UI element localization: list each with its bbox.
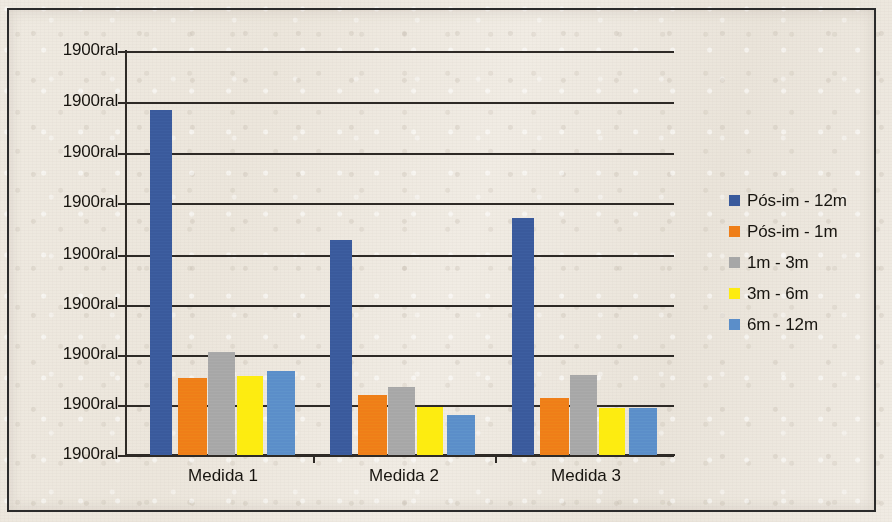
- scanned-page: 1900ral1900ral1900ral1900ral1900ral1900r…: [0, 0, 892, 522]
- y-axis-tick-label: 1900ral: [8, 40, 118, 60]
- bar-2-4: [417, 407, 443, 455]
- y-axis-tick-label: 1900ral: [8, 344, 118, 364]
- legend-item-1: Pós-im - 12m: [729, 185, 847, 216]
- y-axis-tick-label: 1900ral: [8, 142, 118, 162]
- legend-swatch-icon: [729, 195, 740, 206]
- legend-item-4: 3m - 6m: [729, 278, 847, 309]
- legend-item-2: Pós-im - 1m: [729, 216, 847, 247]
- plot-area: [126, 51, 674, 455]
- bar-3-5: [629, 408, 657, 455]
- category-label-3: Medida 3: [526, 466, 646, 486]
- legend-label: 3m - 6m: [747, 284, 809, 304]
- legend-label: Pós-im - 1m: [747, 222, 838, 242]
- y-axis-tick-labels: 1900ral1900ral1900ral1900ral1900ral1900r…: [0, 0, 118, 470]
- bar-2-5: [447, 415, 475, 455]
- legend-swatch-icon: [729, 319, 740, 330]
- y-axis-tick-label: 1900ral: [8, 294, 118, 314]
- bar-1-5: [267, 371, 295, 455]
- chart-legend: Pós-im - 12mPós-im - 1m1m - 3m3m - 6m6m …: [729, 185, 847, 340]
- x-axis-tick: [495, 455, 497, 463]
- bar-2-1: [330, 240, 352, 455]
- legend-swatch-icon: [729, 288, 740, 299]
- bar-3-4: [599, 408, 625, 455]
- bar-3-2: [540, 398, 569, 455]
- bar-1-4: [237, 376, 263, 455]
- bar-1-2: [178, 378, 207, 455]
- legend-item-3: 1m - 3m: [729, 247, 847, 278]
- legend-label: 6m - 12m: [747, 315, 818, 335]
- legend-label: Pós-im - 12m: [747, 191, 847, 211]
- y-axis-tick-label: 1900ral: [8, 244, 118, 264]
- legend-swatch-icon: [729, 226, 740, 237]
- bar-3-3: [570, 375, 597, 455]
- y-axis-tick-label: 1900ral: [8, 192, 118, 212]
- y-axis-tick-label: 1900ral: [8, 91, 118, 111]
- bar-2-3: [388, 387, 415, 455]
- x-axis-tick: [313, 455, 315, 463]
- category-label-1: Medida 1: [163, 466, 283, 486]
- bar-2-2: [358, 395, 387, 455]
- legend-item-5: 6m - 12m: [729, 309, 847, 340]
- legend-swatch-icon: [729, 257, 740, 268]
- bar-3-1: [512, 218, 534, 455]
- y-axis-tick-label: 1900ral: [8, 394, 118, 414]
- bar-1-1: [150, 110, 172, 455]
- y-axis-tick-label: 1900ral: [8, 444, 118, 464]
- bar-1-3: [208, 352, 235, 455]
- category-label-2: Medida 2: [344, 466, 464, 486]
- legend-label: 1m - 3m: [747, 253, 809, 273]
